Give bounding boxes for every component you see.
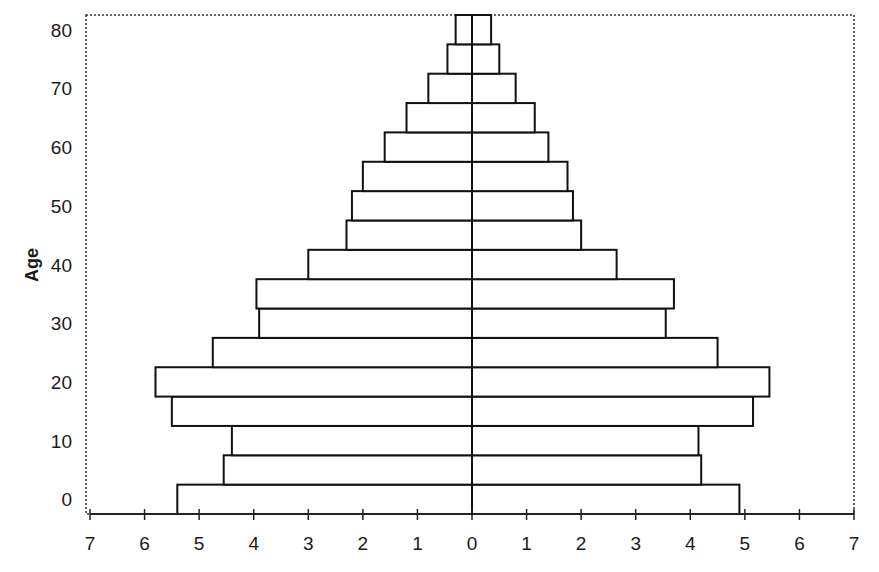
- bar-age-75-right: [472, 44, 499, 73]
- bar-age-55-right: [472, 162, 568, 191]
- bar-age-70-right: [472, 74, 516, 103]
- bar-age-45-right: [472, 220, 581, 249]
- bar-age-30-left: [259, 309, 472, 338]
- bar-age-60-left: [385, 132, 472, 161]
- population-pyramid-chart: 765432101234567 01020304050607080 Age: [0, 0, 879, 572]
- bar-age-20-left: [155, 367, 472, 396]
- bar-age-10-right: [472, 426, 698, 455]
- bar-age-15-left: [172, 397, 472, 426]
- y-axis-ticks: 01020304050607080: [51, 20, 72, 511]
- x-tick-label: 2: [358, 533, 369, 554]
- x-tick-label: 0: [467, 533, 478, 554]
- y-tick-label: 0: [61, 489, 72, 510]
- bar-age-80-right: [472, 15, 491, 44]
- x-tick-label: 3: [303, 533, 314, 554]
- bar-age-70-left: [428, 74, 472, 103]
- bar-age-50-left: [352, 191, 472, 220]
- bar-age-45-left: [346, 220, 472, 249]
- bar-age-50-right: [472, 191, 573, 220]
- x-axis-ticks: 765432101234567: [85, 509, 860, 554]
- x-tick-label: 1: [412, 533, 423, 554]
- x-tick-label: 4: [685, 533, 696, 554]
- bar-age-65-left: [407, 103, 472, 132]
- y-tick-label: 70: [51, 78, 72, 99]
- bar-age-20-right: [472, 367, 769, 396]
- y-axis-title: Age: [22, 248, 42, 282]
- y-tick-label: 80: [51, 20, 72, 41]
- x-tick-label: 4: [248, 533, 259, 554]
- bar-age-5-right: [472, 455, 701, 484]
- y-tick-label: 50: [51, 196, 72, 217]
- bar-age-40-left: [308, 250, 472, 279]
- x-tick-label: 5: [194, 533, 205, 554]
- bar-age-65-right: [472, 103, 535, 132]
- x-tick-label: 6: [794, 533, 805, 554]
- bar-age-75-left: [447, 44, 472, 73]
- y-tick-label: 10: [51, 431, 72, 452]
- x-tick-label: 1: [521, 533, 532, 554]
- x-tick-label: 7: [849, 533, 860, 554]
- x-tick-label: 6: [139, 533, 150, 554]
- bar-age-0-left: [177, 485, 472, 514]
- y-tick-label: 30: [51, 313, 72, 334]
- bars-group: [155, 15, 769, 514]
- bar-age-10-left: [232, 426, 472, 455]
- bar-age-60-right: [472, 132, 548, 161]
- bar-age-25-right: [472, 338, 718, 367]
- x-tick-label: 7: [85, 533, 96, 554]
- bar-age-0-right: [472, 485, 739, 514]
- bar-age-25-left: [213, 338, 472, 367]
- bar-age-15-right: [472, 397, 753, 426]
- y-tick-label: 40: [51, 255, 72, 276]
- y-tick-label: 60: [51, 137, 72, 158]
- bar-age-80-left: [456, 15, 472, 44]
- bar-age-5-left: [224, 455, 472, 484]
- x-tick-label: 5: [740, 533, 751, 554]
- x-tick-label: 2: [576, 533, 587, 554]
- bar-age-40-right: [472, 250, 617, 279]
- bar-age-30-right: [472, 309, 666, 338]
- bar-age-35-left: [256, 279, 472, 308]
- x-tick-label: 3: [630, 533, 641, 554]
- y-tick-label: 20: [51, 372, 72, 393]
- bar-age-55-left: [363, 162, 472, 191]
- bar-age-35-right: [472, 279, 674, 308]
